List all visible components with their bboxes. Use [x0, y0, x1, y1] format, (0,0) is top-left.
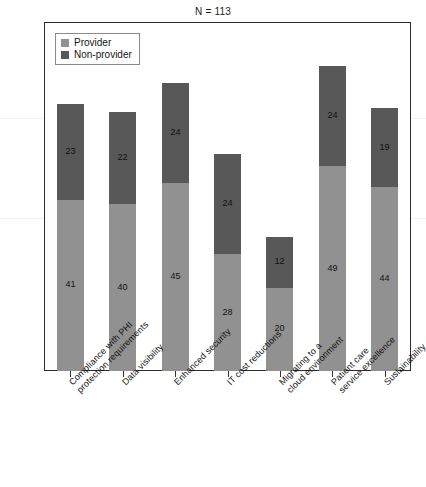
- legend-item-non-provider: Non-provider: [61, 49, 132, 61]
- legend-label-non-provider: Non-provider: [74, 49, 132, 61]
- x-axis-tick: [228, 371, 229, 377]
- x-axis-tick: [332, 371, 333, 377]
- stacked-bar-chart: N = 113 Provider Non-provider 4123402245…: [0, 0, 426, 487]
- chart-legend: Provider Non-provider: [55, 33, 140, 65]
- plot-area-frame: [44, 22, 411, 371]
- legend-swatch-provider: [61, 39, 69, 47]
- legend-item-provider: Provider: [61, 37, 132, 49]
- legend-label-provider: Provider: [74, 37, 111, 49]
- x-axis-tick: [385, 371, 386, 377]
- x-axis-tick: [123, 371, 124, 377]
- x-axis-tick: [70, 371, 71, 377]
- sample-size-caption: N = 113: [0, 6, 426, 17]
- x-axis-tick: [175, 371, 176, 377]
- legend-swatch-non-provider: [61, 51, 69, 59]
- x-axis-tick: [280, 371, 281, 377]
